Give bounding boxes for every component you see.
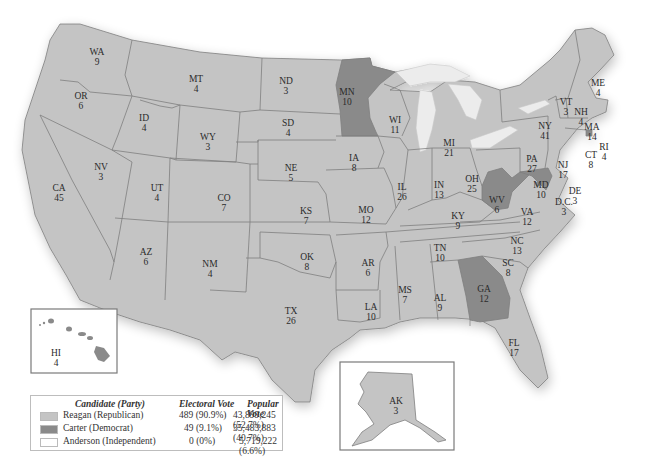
label-wv: WV6: [489, 195, 505, 215]
legend-candidate: Carter (Democrat): [63, 423, 133, 433]
legend-candidate: Anderson (Independent): [63, 436, 156, 446]
label-ak: AK3: [389, 396, 403, 416]
label-tx: TX26: [285, 306, 298, 326]
legend-header-candidate: Candidate (Party): [75, 399, 145, 409]
legend-row-reagan: Reagan (Republican) 489 (90.9%) 43,899,2…: [31, 410, 282, 424]
label-mn: MN10: [339, 87, 354, 107]
label-dc: D.C.3: [555, 197, 573, 217]
label-ca: CA45: [52, 183, 65, 203]
label-mi: MI21: [443, 138, 455, 158]
label-ia: IA8: [349, 153, 359, 173]
legend: Candidate (Party) Electoral Vote Popular…: [30, 395, 283, 451]
legend-electoral: 49 (9.1%): [184, 423, 222, 433]
label-ut: UT4: [151, 183, 164, 203]
legend-popular: 5,719,222 (6.6%): [239, 436, 282, 456]
label-wy: WY3: [200, 132, 216, 152]
label-ga: GA12: [477, 284, 491, 304]
label-az: AZ6: [140, 247, 153, 267]
anderson-swatch: [40, 438, 58, 447]
label-nv: NV3: [94, 162, 108, 182]
legend-electoral: 489 (90.9%): [179, 410, 227, 420]
label-md: MD10: [533, 180, 548, 200]
legend-row-carter: Carter (Democrat) 49 (9.1%) 35,483,883 (…: [31, 423, 282, 437]
label-mt: MT4: [189, 74, 203, 94]
legend-electoral: 0 (0%): [189, 436, 215, 446]
label-me: ME4: [591, 78, 605, 98]
label-al: AL9: [434, 293, 447, 313]
label-nj: NJ17: [558, 160, 569, 180]
label-fl: FL17: [508, 338, 519, 358]
label-sc: SC8: [502, 258, 514, 278]
label-ri: RI4: [599, 142, 609, 162]
label-ct: CT8: [585, 150, 597, 170]
label-ms: MS7: [398, 285, 412, 305]
label-mo: MO12: [358, 205, 373, 225]
label-ne: NE5: [285, 163, 298, 183]
label-wi: WI11: [389, 115, 401, 135]
legend-candidate: Reagan (Republican): [63, 410, 143, 420]
label-nm: NM4: [202, 259, 217, 279]
label-wa: WA9: [90, 47, 105, 67]
label-ky: KY9: [451, 211, 465, 231]
hawaii-inset: [31, 309, 117, 373]
label-or: OR6: [74, 91, 87, 111]
label-hi: HI4: [51, 348, 61, 368]
label-sd: SD4: [282, 118, 294, 138]
label-ar: AR6: [361, 258, 374, 278]
label-va: VA12: [521, 207, 534, 227]
label-nh: NH4: [574, 107, 588, 127]
label-il: IL26: [397, 182, 407, 202]
legend-row-anderson: Anderson (Independent) 0 (0%) 5,719,222 …: [31, 436, 282, 450]
legend-header-electoral: Electoral Vote: [179, 399, 234, 409]
label-co: CO7: [217, 193, 230, 213]
label-id: ID4: [139, 113, 149, 133]
label-nd: ND3: [279, 76, 293, 96]
label-tn: TN10: [434, 243, 447, 263]
label-pa: PA27: [526, 154, 537, 174]
label-ny: NY41: [538, 121, 552, 141]
label-vt: VT3: [560, 97, 573, 117]
label-in: IN13: [434, 180, 444, 200]
label-nc: NC13: [510, 236, 523, 256]
reagan-swatch: [40, 412, 58, 421]
label-ks: KS7: [300, 206, 312, 226]
carter-swatch: [40, 425, 58, 434]
label-ok: OK8: [300, 252, 314, 272]
label-la: LA10: [365, 302, 378, 322]
label-oh: OH25: [465, 174, 479, 194]
